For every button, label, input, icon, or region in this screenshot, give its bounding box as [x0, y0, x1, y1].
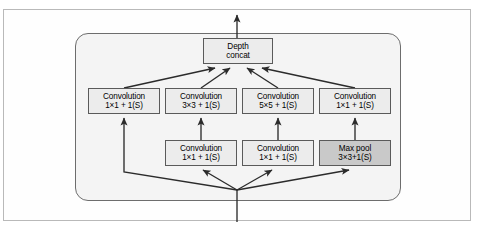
- node-convolution-1x1-reduce-3x3[interactable]: Convolution 1×1 + 1(S): [165, 140, 237, 166]
- node-convolution-3x3[interactable]: Convolution 3×3 + 1(S): [165, 88, 237, 114]
- node-max-pool-line2: 3×3+1(S): [338, 153, 371, 162]
- node-convolution-1x1-branch1[interactable]: Convolution 1×1 + 1(S): [88, 88, 160, 114]
- node-depth-concat[interactable]: Depth concat: [203, 38, 273, 64]
- node-convolution-1x1-branch1-line2: 1×1 + 1(S): [105, 101, 143, 110]
- node-convolution-1x1-reduce-5x5-line1: Convolution: [257, 144, 299, 153]
- node-convolution-1x1-branch1-line1: Convolution: [103, 92, 145, 101]
- node-convolution-5x5-line1: Convolution: [257, 92, 299, 101]
- node-convolution-1x1-reduce-3x3-line2: 1×1 + 1(S): [182, 153, 220, 162]
- node-max-pool[interactable]: Max pool 3×3+1(S): [319, 140, 391, 166]
- node-convolution-1x1-branch4-line1: Convolution: [334, 92, 376, 101]
- node-convolution-1x1-branch4[interactable]: Convolution 1×1 + 1(S): [319, 88, 391, 114]
- node-max-pool-line1: Max pool: [339, 144, 371, 153]
- node-depth-concat-line2: concat: [226, 51, 250, 60]
- node-convolution-3x3-line2: 3×3 + 1(S): [182, 101, 220, 110]
- node-convolution-1x1-branch4-line2: 1×1 + 1(S): [336, 101, 374, 110]
- node-convolution-5x5[interactable]: Convolution 5×5 + 1(S): [242, 88, 314, 114]
- node-convolution-1x1-reduce-5x5[interactable]: Convolution 1×1 + 1(S): [242, 140, 314, 166]
- node-convolution-3x3-line1: Convolution: [180, 92, 222, 101]
- node-convolution-5x5-line2: 5×5 + 1(S): [259, 101, 297, 110]
- inception-module-figure: Depth concat Convolution 1×1 + 1(S) Conv…: [0, 0, 478, 230]
- node-convolution-1x1-reduce-5x5-line2: 1×1 + 1(S): [259, 153, 297, 162]
- node-depth-concat-line1: Depth: [227, 42, 248, 51]
- node-convolution-1x1-reduce-3x3-line1: Convolution: [180, 144, 222, 153]
